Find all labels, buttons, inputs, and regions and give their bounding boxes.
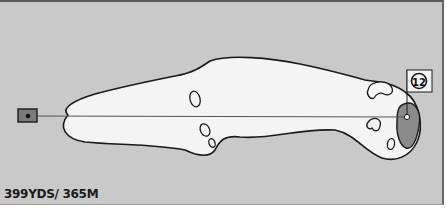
bunker-5 — [367, 118, 381, 130]
hole-number: 12 — [412, 77, 426, 88]
yardage-label: 399YDS/ 365M — [4, 187, 98, 201]
hole-diagram-frame: 12 399YDS/ 365M — [0, 0, 444, 205]
hole-map: 12 — [0, 2, 446, 209]
flag-pin-icon — [404, 114, 409, 119]
tee-marker-icon — [26, 114, 31, 119]
fairway — [63, 57, 420, 159]
